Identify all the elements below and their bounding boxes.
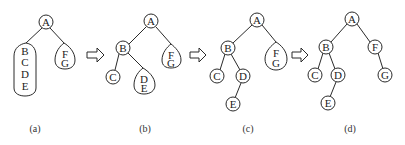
node-c-label: C — [109, 71, 116, 83]
group-de-label-2: E — [141, 82, 148, 94]
node-b-label: B — [119, 42, 126, 54]
edge-a-fg — [262, 25, 276, 42]
edge-b-d — [329, 53, 335, 69]
node-a-label: A — [42, 16, 50, 28]
binary-tree-construction-diagram: A B C D E F G (a) A B C F G D E (b) — [0, 0, 405, 145]
group-fg-label-2: G — [61, 57, 69, 69]
edge-a-fg — [50, 28, 64, 43]
edge-b-c — [220, 54, 225, 70]
node-d-label: D — [239, 70, 247, 82]
panel-b: A B C F G D E (b) — [106, 14, 181, 135]
node-e-label: E — [230, 98, 237, 110]
transition-arrow-icon-1 — [87, 48, 104, 62]
transition-arrow-icon-3 — [292, 48, 308, 62]
node-g-label: G — [381, 69, 389, 81]
node-b-label: B — [322, 41, 329, 53]
node-c-label: C — [213, 70, 220, 82]
edge-b-c — [318, 53, 323, 69]
edge-d-e — [235, 83, 241, 98]
panel-c: A B C D E F G (c) — [210, 13, 287, 135]
group-bcde-label-2: C — [21, 56, 28, 68]
group-fg-label-2: G — [272, 57, 280, 69]
node-a-label: A — [348, 13, 356, 25]
node-d-label: D — [334, 69, 342, 81]
caption-a: (a) — [29, 123, 40, 135]
node-f-label: F — [372, 41, 378, 53]
panel-a: A B C D E F G (a) — [14, 15, 75, 135]
caption-d: (d) — [344, 123, 356, 135]
node-a-label: A — [253, 14, 261, 26]
node-c-label: C — [311, 69, 318, 81]
caption-c: (c) — [242, 123, 253, 135]
node-b-label: B — [224, 42, 231, 54]
caption-b: (b) — [139, 123, 151, 135]
diagram-svg: A B C D E F G (a) A B C F G D E (b) — [0, 0, 405, 145]
edge-b-d — [231, 54, 240, 70]
edge-b-c — [115, 54, 119, 70]
transition-arrow-icon-2 — [190, 48, 206, 62]
group-fg-label-2: G — [167, 57, 175, 69]
node-e-label: E — [325, 97, 332, 109]
edge-a-fg — [156, 27, 171, 44]
edge-d-e — [330, 82, 336, 97]
edge-a-b — [233, 25, 252, 43]
node-a-label: A — [147, 15, 155, 27]
group-bcde-label-4: E — [22, 80, 29, 92]
edge-a-f — [357, 24, 370, 42]
edge-b-de — [128, 53, 143, 68]
edge-f-g — [378, 53, 383, 69]
edge-a-b — [331, 24, 347, 42]
edge-a-bcde — [26, 28, 42, 43]
group-bcde-label-3: D — [21, 68, 29, 80]
panel-d: A B C D E F G (d) — [308, 12, 392, 135]
edge-a-b — [129, 27, 146, 44]
